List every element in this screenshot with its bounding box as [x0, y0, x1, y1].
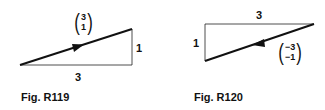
- figure-caption: Fig. R120: [194, 91, 243, 103]
- vertical-label: 1: [193, 38, 199, 49]
- arrowhead-icon: [72, 44, 84, 52]
- arrowhead-icon: [252, 39, 265, 47]
- vector-label-r119: ( 31 ): [73, 10, 94, 34]
- horizontal-label: 3: [256, 10, 262, 21]
- vector-bottom: 1: [81, 22, 86, 32]
- vector-top: −3: [285, 42, 295, 52]
- vector-top: 3: [81, 12, 86, 22]
- vector-bottom: −1: [285, 52, 295, 62]
- vector-label-r120: ( −3−1 ): [277, 40, 303, 64]
- vertical-label: 1: [136, 43, 142, 54]
- horizontal-label: 3: [75, 72, 81, 83]
- figure-caption: Fig. R119: [21, 91, 69, 103]
